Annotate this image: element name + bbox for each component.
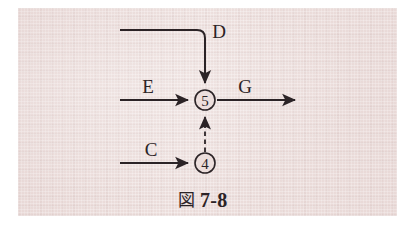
figure-caption-cjk: 図 — [178, 191, 195, 210]
node-5-label: 5 — [201, 93, 209, 109]
figure-caption: 図 7-8 — [178, 189, 228, 211]
figure-page: D E G C 5 4 図 7-8 — [0, 0, 407, 234]
block-diagram: D E G C 5 4 図 7-8 — [0, 0, 407, 234]
edge-d-path — [120, 30, 205, 83]
node-5: 5 — [195, 90, 215, 110]
figure-caption-number: 7-8 — [200, 189, 228, 211]
edge-label-g: G — [238, 76, 252, 97]
edge-label-c: C — [145, 139, 158, 160]
edge-label-d: D — [212, 21, 226, 42]
node-4: 4 — [195, 153, 215, 173]
edge-label-e: E — [142, 76, 154, 97]
node-4-label: 4 — [201, 156, 209, 172]
